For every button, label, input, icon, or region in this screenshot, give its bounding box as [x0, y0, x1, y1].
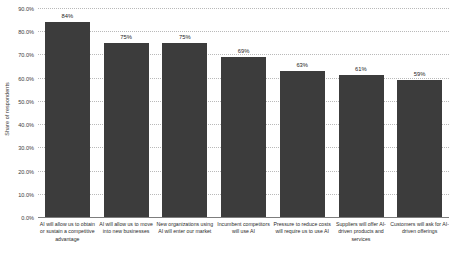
bar[interactable]	[280, 71, 325, 217]
bar[interactable]	[397, 80, 442, 217]
x-axis-category-label: New organizations using AI will enter ou…	[155, 221, 214, 236]
bar[interactable]	[221, 57, 266, 217]
bar-value-label: 63%	[273, 62, 332, 68]
y-axis-tick-label: 20.0%	[18, 169, 34, 175]
y-axis-title-text: Share of respondents	[4, 82, 10, 136]
x-axis-category-label: Incumbent competitors will use AI	[214, 221, 273, 236]
gridline: 0.0%	[38, 217, 449, 218]
bar-value-label: 84%	[38, 13, 97, 19]
y-axis-tick-label: 80.0%	[18, 29, 34, 35]
bar-slot: 69%	[214, 8, 273, 217]
y-axis-tick-label: 40.0%	[18, 122, 34, 128]
x-axis-category-labels: AI will allow us to obtain or sustain a …	[38, 221, 449, 266]
y-axis-tick-label: 70.0%	[18, 52, 34, 58]
x-axis-category-label: AI will allow us to move into new busine…	[97, 221, 156, 236]
bar-slot: 84%	[38, 8, 97, 217]
bar-slot: 61%	[332, 8, 391, 217]
y-axis-tick-label: 10.0%	[18, 192, 34, 198]
bar-slot: 59%	[390, 8, 449, 217]
bar-slot: 63%	[273, 8, 332, 217]
bar-value-label: 61%	[332, 66, 391, 72]
bar-value-label: 69%	[214, 48, 273, 54]
x-axis-category-label: Customers will ask for AI-driven offerin…	[390, 221, 449, 236]
y-axis-tick-label: 90.0%	[18, 6, 34, 12]
bar-value-label: 75%	[97, 34, 156, 40]
y-axis-tick-label: 50.0%	[18, 99, 34, 105]
bar[interactable]	[339, 75, 384, 217]
x-axis-category-label: Suppliers will offer AI-driven products …	[332, 221, 391, 243]
bar-slot: 75%	[97, 8, 156, 217]
bar-slot: 75%	[155, 8, 214, 217]
x-axis-category-label: AI will allow us to obtain or sustain a …	[38, 221, 97, 243]
bar[interactable]	[104, 43, 149, 217]
y-axis-tick-label: 60.0%	[18, 76, 34, 82]
bar-chart: Share of respondents 0.0%10.0%20.0%30.0%…	[0, 0, 449, 266]
y-axis-tick-label: 0.0%	[21, 215, 34, 221]
bar-value-label: 59%	[390, 71, 449, 77]
bar[interactable]	[162, 43, 207, 217]
bar[interactable]	[45, 22, 90, 217]
bar-value-label: 75%	[155, 34, 214, 40]
y-axis-title: Share of respondents	[0, 0, 14, 218]
bars-layer: 84%75%75%69%63%61%59%	[38, 8, 449, 217]
y-axis-tick-label: 30.0%	[18, 145, 34, 151]
x-axis-category-label: Pressure to reduce costs will require us…	[273, 221, 332, 236]
plot-area: 0.0%10.0%20.0%30.0%40.0%50.0%60.0%70.0%8…	[38, 8, 449, 217]
